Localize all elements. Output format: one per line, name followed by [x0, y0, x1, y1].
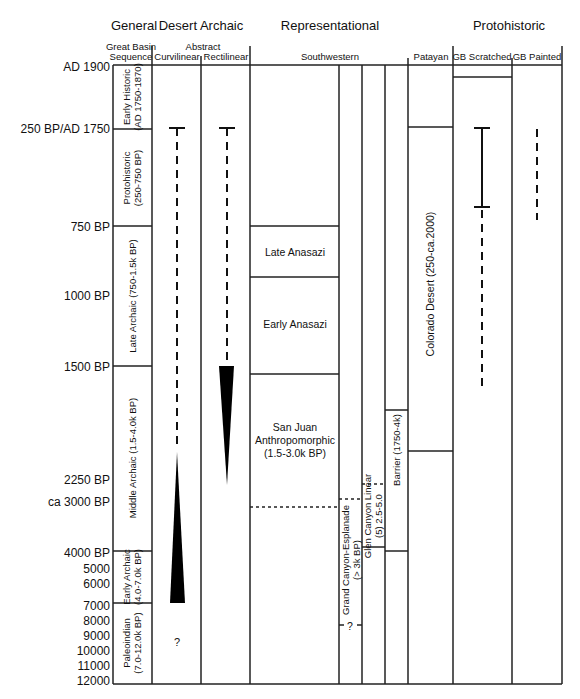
period-barrier: Barrier (1750-4k) [391, 414, 402, 486]
gb-scratched-range [474, 128, 490, 390]
curvilinear-wedge [170, 452, 185, 603]
period-early-historic: Early Historic(AD 1750-1870) [121, 63, 143, 131]
period-early-archaic: Early Archaic(4.0-7.0k BP) [121, 549, 143, 605]
period-grand-canyon-esplanade: Grand Canyon-Esplanade(> 3k BP) [340, 505, 362, 615]
period-early-anasazi: Early Anasazi [263, 318, 327, 331]
period-paleoindian: Paleoindian(7.0-12.0k BP) [121, 612, 143, 673]
period-late-anasazi: Late Anasazi [265, 246, 325, 259]
desert-archaic-markers [0, 0, 580, 699]
period-san-juan-anthropomorphic: San Juan Anthropomorphic (1.5-3.0k BP) [255, 421, 335, 460]
rectilinear-range [219, 128, 235, 362]
curvilinear-question-mark: ? [174, 636, 180, 649]
period-protohistoric: Protohistoric(250-750 BP) [121, 150, 143, 207]
period-colorado-desert: Colorado Desert (250-ca.2000) [425, 212, 436, 357]
period-late-archaic: Late Archaic (750-1.5k BP) [127, 239, 138, 353]
grand-canyon-question-mark: ? [347, 620, 353, 633]
period-middle-archaic: Middle Archaic (1.5-4.0k BP) [127, 398, 138, 518]
rectilinear-wedge [219, 366, 234, 485]
curvilinear-range [169, 128, 185, 445]
period-glen-canyon-linear: Glen Canyon Linear(5) 2.5-5.0 [362, 474, 384, 559]
